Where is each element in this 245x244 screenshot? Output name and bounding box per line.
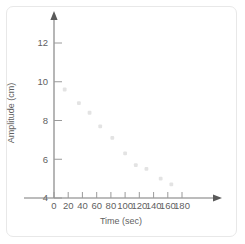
x-tick-label: 40 [77, 200, 88, 211]
x-tick-label: 180 [174, 200, 190, 211]
y-tick-labels: 4681012 [37, 37, 48, 203]
data-point [123, 152, 127, 156]
y-tick-label: 4 [43, 192, 48, 203]
y-tick-label: 12 [37, 37, 48, 48]
chart-figure: 4681012 020406080100120140160180 Amplitu… [0, 0, 245, 244]
x-tick-label: 20 [63, 200, 74, 211]
y-axis [50, 11, 57, 198]
x-tick-label: 80 [106, 200, 117, 211]
scatter-plot: 4681012 020406080100120140160180 [0, 0, 245, 244]
data-point [159, 177, 163, 181]
x-tick-label: 0 [51, 200, 56, 211]
x-tick-label: 60 [91, 200, 102, 211]
y-tick-label: 6 [43, 154, 48, 165]
y-tick-label: 8 [43, 115, 48, 126]
data-points-group [63, 88, 173, 187]
data-point [77, 101, 81, 105]
data-point [145, 167, 149, 171]
x-axis-ticks [54, 192, 182, 198]
data-point [134, 163, 138, 167]
y-axis-ticks [54, 43, 62, 198]
x-axis-title: Time (sec) [54, 216, 188, 226]
y-tick-label: 10 [37, 76, 48, 87]
data-point [63, 88, 67, 92]
x-tick-labels: 020406080100120140160180 [51, 200, 190, 211]
data-point [98, 124, 102, 128]
data-point [110, 136, 114, 140]
data-point [169, 183, 173, 187]
y-axis-title: Amplitude (cm) [6, 71, 16, 155]
data-point [88, 111, 92, 115]
